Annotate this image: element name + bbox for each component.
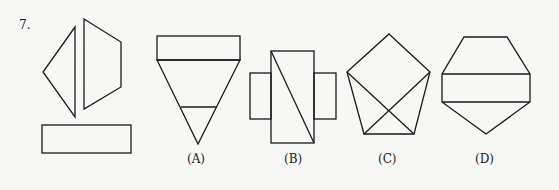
option-d-outline bbox=[442, 37, 530, 134]
piece-quadrilateral bbox=[84, 19, 121, 109]
option-c-label: (C) bbox=[378, 152, 397, 166]
option-c[interactable]: (C) bbox=[347, 34, 430, 166]
option-b-label: (B) bbox=[284, 152, 302, 166]
option-d[interactable]: (D) bbox=[442, 37, 530, 166]
option-d-label: (D) bbox=[475, 152, 494, 166]
option-b-right-tab bbox=[314, 73, 336, 119]
option-a-label: (A) bbox=[187, 152, 205, 166]
option-b[interactable]: (B) bbox=[250, 51, 336, 166]
option-a-triangle bbox=[157, 60, 240, 144]
option-a-rectangle bbox=[157, 36, 240, 60]
given-pieces bbox=[42, 19, 131, 153]
piece-triangle bbox=[43, 27, 75, 117]
option-b-diagonal bbox=[271, 51, 314, 143]
option-b-left-tab bbox=[250, 73, 271, 119]
option-a[interactable]: (A) bbox=[157, 36, 240, 166]
question-number: 7. bbox=[19, 18, 30, 32]
option-c-diagonal-1 bbox=[347, 72, 414, 134]
option-c-diagonal-2 bbox=[364, 72, 430, 134]
puzzle-diagram: 7. (A) (B) (C) (D) bbox=[0, 0, 559, 190]
piece-rectangle bbox=[42, 125, 131, 153]
